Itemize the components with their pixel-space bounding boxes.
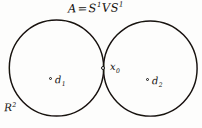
left-circle: [9, 20, 103, 116]
basepoint-subscript: 0: [116, 67, 120, 74]
figure-canvas: [0, 0, 202, 128]
space-label-second-circle: S: [110, 1, 118, 15]
ambient-plane-label: R2: [4, 102, 17, 113]
space-label-first-circle: S: [88, 1, 96, 15]
basepoint-dot: [101, 66, 105, 70]
disk-2-subscript: 2: [159, 81, 163, 88]
wedge-of-circles-figure: A=S1VS1 x0 d1 d2 R2: [0, 0, 202, 128]
space-label-name: A: [68, 1, 77, 15]
disk-1-subscript: 1: [62, 80, 66, 87]
basepoint-label: x0: [110, 62, 120, 72]
disk-1-label: d1: [55, 75, 66, 85]
disk-2-center-dot: [146, 78, 149, 81]
plane-symbol: R: [4, 101, 12, 113]
disk-2-symbol: d: [152, 75, 159, 86]
space-label-second-exponent: 1: [119, 0, 124, 9]
disk-2-label: d2: [152, 76, 163, 86]
disk-1-symbol: d: [55, 74, 62, 85]
plane-exponent: 2: [12, 100, 16, 108]
basepoint-symbol: x: [110, 61, 116, 72]
disk-1-center-dot: [49, 77, 52, 80]
space-label: A=S1VS1: [68, 2, 124, 15]
wedge-operator: V: [102, 1, 111, 15]
space-label-equals: =: [77, 1, 87, 15]
